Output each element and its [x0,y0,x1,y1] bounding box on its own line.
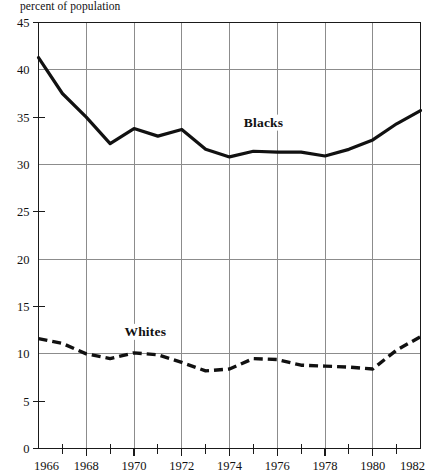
x-axis-tick-label: 1974 [217,459,243,473]
y-axis-tick-labels: 051015202530354045 [17,16,30,456]
x-axis-tick-labels: 196619681970197219741976197819801982 [34,459,425,473]
y-axis-tick-label: 10 [17,347,30,361]
axis-ticks [33,23,397,456]
chart-container: percent of population 051015202530354045… [0,0,436,476]
x-axis-tick-label: 1978 [313,459,338,473]
x-axis-tick-label: 1982 [400,459,425,473]
series-label-whites: Whites [124,324,166,339]
y-axis-tick-label: 25 [17,205,30,219]
y-axis-tick-label: 45 [17,16,30,30]
series-labels: BlacksWhites [121,115,297,340]
series-label-blacks: Blacks [244,115,283,130]
y-axis-tick-label: 15 [17,300,30,314]
x-axis-tick-label: 1966 [34,459,59,473]
x-axis-tick-label: 1980 [360,459,385,473]
y-axis-tick-label: 20 [17,253,30,267]
y-axis-tick-label: 0 [23,442,29,456]
x-axis-tick-label: 1976 [265,459,290,473]
y-axis-tick-label: 30 [17,158,30,172]
line-chart: 051015202530354045 196619681970197219741… [0,0,436,476]
x-axis-tick-label: 1972 [169,459,194,473]
y-axis-tick-label: 35 [17,111,30,125]
x-axis-tick-label: 1968 [74,459,99,473]
x-axis-tick-label: 1970 [122,459,147,473]
gridlines [39,23,421,449]
y-axis-unit-note: percent of population [20,0,120,12]
y-axis-tick-label: 5 [23,395,29,409]
y-axis-tick-label: 40 [17,63,30,77]
